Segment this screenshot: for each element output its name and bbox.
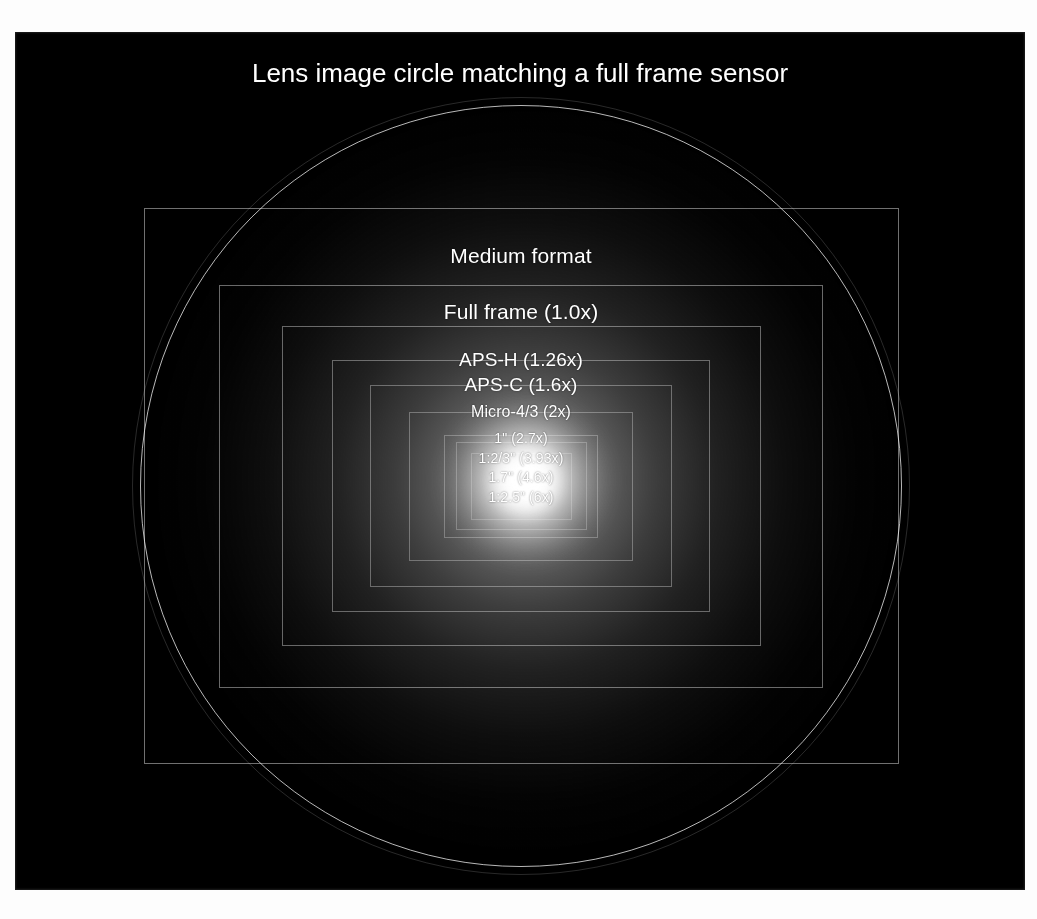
sensor-label-1-7-inch: 1.7" (4.6x) bbox=[488, 469, 553, 485]
sensor-label-aps-h: APS-H (1.26x) bbox=[459, 349, 583, 371]
sensor-label-1-2-5-inch: 1:2.5" (6x) bbox=[488, 489, 553, 505]
photograph: Medium formatFull frame (1.0x)APS-H (1.2… bbox=[15, 32, 1025, 890]
sensor-label-micro-4-3: Micro-4/3 (2x) bbox=[471, 403, 571, 421]
sensor-label-1-2-3-inch: 1:2/3" (3.93x) bbox=[479, 450, 564, 466]
sensor-label-full-frame: Full frame (1.0x) bbox=[444, 300, 599, 324]
sensor-label-1-inch: 1" (2.7x) bbox=[494, 430, 547, 446]
sensor-label-aps-c: APS-C (1.6x) bbox=[464, 374, 577, 396]
figure-title: Lens image circle matching a full frame … bbox=[252, 58, 788, 89]
figure-page: Medium formatFull frame (1.0x)APS-H (1.2… bbox=[0, 0, 1037, 919]
sensor-label-medium-format: Medium format bbox=[450, 244, 591, 268]
